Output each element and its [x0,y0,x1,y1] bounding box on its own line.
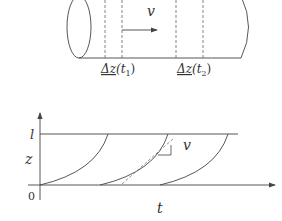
trajectory-curve-1 [40,134,108,185]
cylinder [67,0,249,58]
tangent-dashed-line [122,138,174,184]
diagram-canvas: v Δz(t1) Δz(t2) v l z 0 t [0,0,282,221]
origin-label: 0 [28,190,35,203]
segment-label-1: Δz(t1) [100,62,135,78]
cylinder-right-end [241,0,249,58]
z-axis-label: z [24,151,33,167]
trajectory-curve-2 [100,134,168,185]
cylinder-left-end [67,0,91,58]
top-level-label: l [30,127,34,142]
slope-label: v [183,137,191,153]
t-axis-label: t [157,200,163,216]
segment-label-2: Δz(t2) [176,62,211,78]
velocity-label: v [147,3,155,19]
trajectory-curve-3 [160,134,228,185]
